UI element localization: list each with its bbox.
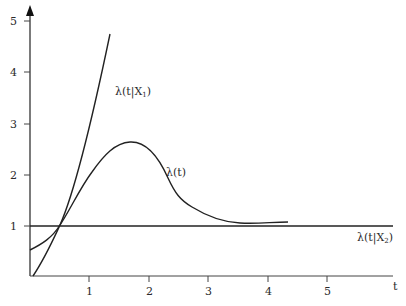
curve-x2-label: λ(t|X2): [357, 231, 393, 245]
y-ticks: 1 2 3 4 5: [10, 15, 30, 233]
x-tick-label: 5: [324, 285, 331, 298]
x-tick-label: 1: [86, 285, 93, 298]
x-tick-label: 3: [205, 285, 212, 298]
curve-x1-label: λ(t|X1): [115, 85, 151, 99]
y-axis-arrow-icon: [26, 5, 34, 16]
y-tick-label: 1: [10, 220, 17, 233]
curve-lambda-label: λ(t): [166, 166, 186, 179]
x-tick-label: 4: [265, 285, 272, 298]
x-axis-label: t: [393, 280, 398, 293]
y-tick-label: 4: [10, 66, 17, 79]
hazard-chart: 1 2 3 4 5 1 2 3 4 5 t λ(t|X1) λ(t) λ(t|X…: [0, 0, 406, 306]
curve-lambda-x1: [33, 34, 110, 276]
y-tick-label: 2: [10, 169, 17, 182]
y-tick-label: 3: [10, 118, 17, 131]
y-tick-label: 5: [10, 15, 17, 28]
x-tick-label: 2: [146, 285, 153, 298]
curve-lambda: [30, 142, 288, 250]
x-ticks: 1 2 3 4 5 t: [86, 276, 398, 298]
